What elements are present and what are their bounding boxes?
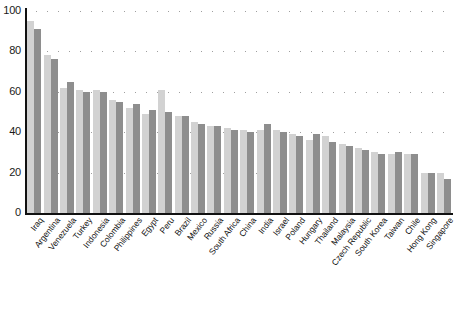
bar-group (157, 11, 173, 213)
y-axis-tick-label: 20 (9, 167, 21, 178)
bar-series-2 (329, 142, 336, 213)
bar-series-1 (421, 173, 428, 213)
bar-series-2 (231, 130, 238, 213)
bar-group (272, 11, 288, 213)
bar-series-1 (289, 134, 296, 213)
bar-group (387, 11, 403, 213)
bar-group (42, 11, 58, 213)
bar-series-1 (109, 100, 116, 213)
bar-series-1 (126, 108, 133, 213)
bar-group (305, 11, 321, 213)
bar-group (255, 11, 271, 213)
bar-series-2 (395, 152, 402, 213)
bar-group (288, 11, 304, 213)
y-axis-tick-label: 80 (9, 45, 21, 56)
bar-chart: 020406080100 IraqArgentinaVenezuelaTurke… (0, 0, 458, 325)
bar-series-1 (175, 116, 182, 213)
bar-series-2 (182, 116, 189, 213)
bar-series-1 (322, 136, 329, 213)
bar-series-1 (240, 130, 247, 213)
bar-series-1 (273, 130, 280, 213)
bar-group (354, 11, 370, 213)
y-axis-tick-label: 100 (3, 5, 21, 16)
bar-group (239, 11, 255, 213)
bar-series-2 (378, 154, 385, 213)
bar-series-1 (93, 90, 100, 213)
bar-series-2 (313, 134, 320, 213)
bar-group (436, 11, 452, 213)
bar-group (141, 11, 157, 213)
y-axis-tick-label: 0 (15, 207, 21, 218)
y-axis-tick-label: 40 (9, 126, 21, 137)
bar-series-2 (198, 124, 205, 213)
bar-series-2 (100, 92, 107, 213)
bar-series-2 (214, 126, 221, 213)
bar-group (59, 11, 75, 213)
bar-series-1 (60, 88, 67, 213)
x-axis-category-labels: IraqArgentinaVenezuelaTurkeyIndonesiaCol… (26, 214, 452, 309)
bar-group (337, 11, 353, 213)
y-axis-tick-labels: 020406080100 (0, 0, 24, 220)
bar-series-2 (428, 173, 435, 213)
bar-series-2 (411, 154, 418, 213)
bar-series-2 (264, 124, 271, 213)
bar-series-1 (371, 152, 378, 213)
bar-series-2 (51, 59, 58, 213)
bar-series-1 (355, 148, 362, 213)
bar-series-1 (76, 90, 83, 213)
bar-series-2 (296, 136, 303, 213)
bar-group (419, 11, 435, 213)
bar-group (75, 11, 91, 213)
bar-series-1 (142, 114, 149, 213)
bar-group (403, 11, 419, 213)
bar-series-1 (191, 122, 198, 213)
bar-group (370, 11, 386, 213)
bar-series-2 (67, 82, 74, 213)
bar-group (190, 11, 206, 213)
bar-series-1 (339, 144, 346, 213)
bar-series-2 (280, 132, 287, 213)
x-axis-label: Egypt (140, 216, 160, 238)
bar-group (26, 11, 42, 213)
bar-series-1 (257, 130, 264, 213)
bar-group (321, 11, 337, 213)
bar-group (124, 11, 140, 213)
bar-series-2 (346, 146, 353, 213)
bar-group (92, 11, 108, 213)
bar-series-1 (437, 173, 444, 213)
bar-series-2 (83, 92, 90, 213)
bar-series-1 (306, 140, 313, 213)
bar-series-2 (133, 104, 140, 213)
bar-groups (26, 11, 452, 213)
bar-series-1 (404, 154, 411, 213)
bar-series-1 (27, 21, 34, 213)
bar-series-2 (444, 179, 451, 213)
bar-series-1 (224, 128, 231, 213)
y-axis-tick-label: 60 (9, 86, 21, 97)
bar-group (223, 11, 239, 213)
bar-group (206, 11, 222, 213)
bar-series-1 (44, 55, 51, 213)
bar-series-2 (149, 110, 156, 213)
bar-series-1 (388, 154, 395, 213)
bar-series-2 (165, 112, 172, 213)
bar-series-1 (158, 90, 165, 213)
bar-series-2 (34, 29, 41, 213)
bar-group (108, 11, 124, 213)
bar-group (174, 11, 190, 213)
bar-series-2 (362, 150, 369, 213)
bar-series-1 (207, 126, 214, 213)
bar-series-2 (247, 132, 254, 213)
bar-series-2 (116, 102, 123, 213)
